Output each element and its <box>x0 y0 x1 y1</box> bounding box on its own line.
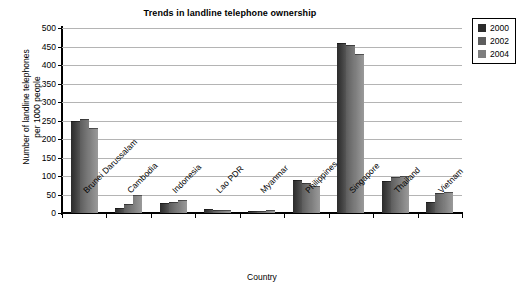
y-tick-label: 300 <box>42 98 56 106</box>
x-tick-mark <box>462 213 463 218</box>
y-tick-label: 150 <box>42 154 56 162</box>
bar-thailand-2000[interactable] <box>382 181 391 213</box>
legend-item-2002[interactable]: 2002 <box>478 36 509 46</box>
x-tick-mark <box>240 213 241 218</box>
bar-myanmar-2000[interactable] <box>248 211 257 213</box>
bar-lao-pdr-2000[interactable] <box>204 209 213 213</box>
bar-indonesia-2002[interactable] <box>169 202 178 213</box>
bar-cambodia-2004[interactable] <box>133 195 142 213</box>
series-swatch-2004 <box>478 50 486 58</box>
chart-legend: 200020022004 <box>472 18 516 64</box>
y-tick-label: 0 <box>51 209 56 217</box>
bar-vietnam-2000[interactable] <box>426 202 435 213</box>
bar-myanmar-2004[interactable] <box>266 210 275 213</box>
bar-brunei-darussalam-2004[interactable] <box>89 128 98 213</box>
series-swatch-2002 <box>478 37 486 45</box>
bar-brunei-darussalam-2000[interactable] <box>71 121 80 213</box>
bar-myanmar-2002[interactable] <box>257 211 266 213</box>
y-axis-title-line2: per 1000 people <box>32 76 42 137</box>
bar-brunei-darussalam-2002[interactable] <box>80 119 89 213</box>
bar-cambodia-2002[interactable] <box>124 204 133 213</box>
bar-philippines-2000[interactable] <box>293 180 302 213</box>
y-tick-label: 500 <box>42 24 56 32</box>
bar-lao-pdr-2004[interactable] <box>222 210 231 213</box>
series-swatch-2000 <box>478 24 486 32</box>
bar-indonesia-2004[interactable] <box>178 200 187 213</box>
x-tick-mark <box>151 213 152 218</box>
x-tick-mark <box>62 213 63 218</box>
legend-item-2004[interactable]: 2004 <box>478 49 509 59</box>
x-tick-mark <box>106 213 107 218</box>
y-tick-label: 50 <box>47 191 56 199</box>
legend-label: 2002 <box>490 37 509 46</box>
x-axis-title: Country <box>62 272 462 282</box>
chart-title: Trends in landline telephone ownership <box>60 8 400 18</box>
bar-vietnam-2002[interactable] <box>435 193 444 213</box>
legend-label: 2004 <box>490 50 509 59</box>
y-tick-label: 400 <box>42 61 56 69</box>
y-tick-label: 450 <box>42 43 56 51</box>
y-tick-label: 350 <box>42 80 56 88</box>
x-tick-mark <box>284 213 285 218</box>
legend-item-2000[interactable]: 2000 <box>478 23 509 33</box>
y-tick-label: 200 <box>42 135 56 143</box>
x-tick-mark <box>329 213 330 218</box>
x-tick-mark <box>373 213 374 218</box>
legend-label: 2000 <box>490 24 509 33</box>
bar-cambodia-2000[interactable] <box>115 208 124 213</box>
bar-lao-pdr-2002[interactable] <box>213 210 222 213</box>
y-axis-title-line1: Number of landline telephones <box>21 49 31 164</box>
bar-singapore-2000[interactable] <box>337 43 346 213</box>
x-tick-mark <box>418 213 419 218</box>
bar-chart: Trends in landline telephone ownership N… <box>0 0 531 291</box>
y-tick-label: 250 <box>42 117 56 125</box>
y-tick-label: 100 <box>42 172 56 180</box>
bar-vietnam-2004[interactable] <box>444 192 453 213</box>
bar-indonesia-2000[interactable] <box>160 203 169 213</box>
x-tick-mark <box>195 213 196 218</box>
